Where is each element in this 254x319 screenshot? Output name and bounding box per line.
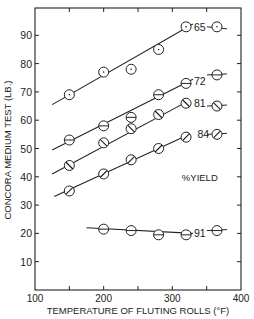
- series-label: 91: [194, 227, 206, 239]
- marker-dot: [103, 71, 105, 73]
- y-tick-label: 50: [20, 143, 32, 155]
- y-tick-label: 30: [20, 199, 32, 211]
- series-label: 81: [194, 97, 206, 109]
- marker-dot: [158, 49, 160, 51]
- y-tick-label: 10: [20, 256, 32, 268]
- marker-dot: [130, 68, 132, 70]
- y-tick-label: 40: [20, 171, 32, 183]
- series-65: [52, 22, 227, 105]
- y-tick-label: 90: [20, 29, 32, 41]
- x-axis-label: TEMPERATURE OF FLUTING ROLLS (°F): [47, 305, 230, 316]
- legend-title: %YIELD: [182, 172, 218, 183]
- series-label: 65: [194, 21, 206, 33]
- x-tick-label: 200: [95, 293, 112, 304]
- marker-dot: [216, 26, 218, 28]
- line-chart: 100200300400102030405060708090 65728184%…: [0, 0, 254, 319]
- y-tick-label: 80: [20, 58, 32, 70]
- series-91: [87, 224, 227, 240]
- y-tick-label: 60: [20, 114, 32, 126]
- plot-frame: [35, 8, 241, 290]
- plot-annotations: 65728184%YIELD91: [182, 21, 218, 240]
- x-tick-label: 100: [27, 293, 44, 304]
- x-tick-label: 400: [233, 293, 250, 304]
- y-axis-label: CONCORA MEDIUM TEST (LB.): [2, 81, 13, 220]
- series-label: 72: [194, 75, 206, 87]
- x-tick-label: 300: [164, 293, 181, 304]
- y-tick-label: 70: [20, 86, 32, 98]
- marker-dot: [185, 26, 187, 28]
- series-label: 84: [197, 128, 209, 140]
- y-tick-label: 20: [20, 227, 32, 239]
- marker-dot: [69, 94, 71, 96]
